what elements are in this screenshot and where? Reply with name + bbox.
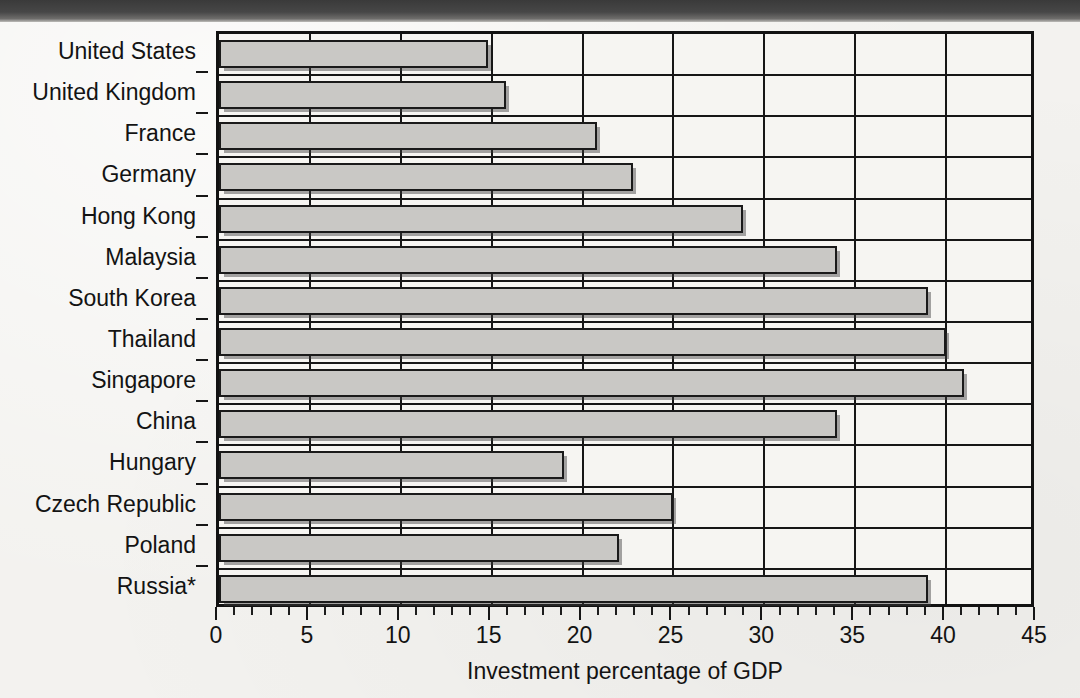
x-tick-minor <box>597 607 599 615</box>
x-tick-minor <box>360 607 362 615</box>
category-label: Thailand <box>108 319 196 360</box>
x-axis-title: Investment percentage of GDP <box>216 658 1034 685</box>
x-tick-label: 35 <box>839 622 865 649</box>
bar[interactable] <box>219 451 564 479</box>
category-axis-labels: United StatesUnited KingdomFranceGermany… <box>0 31 208 607</box>
category-tick <box>196 318 208 320</box>
category-tick <box>196 441 208 443</box>
x-tick-major <box>215 607 217 620</box>
x-tick-label: 30 <box>749 622 775 649</box>
category-label: Hungary <box>109 442 196 483</box>
x-tick-minor <box>288 607 290 615</box>
bar[interactable] <box>219 163 633 191</box>
bar[interactable] <box>219 369 964 397</box>
bar-row <box>219 116 1031 157</box>
category-tick <box>196 195 208 197</box>
x-tick-minor <box>542 607 544 615</box>
x-tick-major <box>488 607 490 620</box>
x-tick-minor <box>233 607 235 615</box>
x-tick-minor <box>615 607 617 615</box>
x-tick-minor <box>742 607 744 615</box>
bar[interactable] <box>219 410 837 438</box>
bar-row <box>219 569 1031 610</box>
category-tick <box>196 71 208 73</box>
value-axis-tick-labels: 051015202530354045 <box>216 622 1034 654</box>
x-tick-label: 25 <box>658 622 684 649</box>
x-tick-label: 20 <box>567 622 593 649</box>
bar[interactable] <box>219 287 928 315</box>
category-tick <box>196 565 208 567</box>
x-tick-major <box>306 607 308 620</box>
category-tick <box>196 359 208 361</box>
x-tick-minor <box>688 607 690 615</box>
bar-row <box>219 281 1031 322</box>
bar[interactable] <box>219 40 488 68</box>
category-tick <box>196 483 208 485</box>
x-tick-minor <box>797 607 799 615</box>
x-tick-minor <box>633 607 635 615</box>
x-tick-label: 40 <box>930 622 956 649</box>
category-tick <box>196 524 208 526</box>
category-label: Czech Republic <box>35 484 196 525</box>
category-label: Singapore <box>91 360 196 401</box>
x-tick-minor <box>506 607 508 615</box>
x-tick-label: 10 <box>385 622 411 649</box>
x-tick-major <box>579 607 581 620</box>
bar[interactable] <box>219 328 946 356</box>
x-tick-major <box>942 607 944 620</box>
bar[interactable] <box>219 534 619 562</box>
bar-row <box>219 487 1031 528</box>
x-tick-label: 0 <box>210 622 223 649</box>
plot-area <box>216 31 1034 607</box>
bar-row <box>219 322 1031 363</box>
x-tick-minor <box>724 607 726 615</box>
bar[interactable] <box>219 205 743 233</box>
category-label: Germany <box>101 154 196 195</box>
x-tick-minor <box>651 607 653 615</box>
x-tick-minor <box>833 607 835 615</box>
x-tick-minor <box>997 607 999 615</box>
bar-row <box>219 240 1031 281</box>
x-tick-major <box>760 607 762 620</box>
x-tick-minor <box>524 607 526 615</box>
bar-row <box>219 34 1031 75</box>
bar-row <box>219 445 1031 486</box>
category-tick <box>196 153 208 155</box>
bar[interactable] <box>219 575 928 603</box>
category-tick <box>196 112 208 114</box>
category-tick <box>196 400 208 402</box>
x-tick-minor <box>270 607 272 615</box>
bar-row <box>219 199 1031 240</box>
category-label: United States <box>58 31 196 72</box>
bar[interactable] <box>219 493 673 521</box>
x-tick-minor <box>706 607 708 615</box>
x-tick-major <box>397 607 399 620</box>
x-tick-minor <box>451 607 453 615</box>
category-label: France <box>124 113 196 154</box>
x-tick-minor <box>1015 607 1017 615</box>
x-tick-label: 45 <box>1021 622 1047 649</box>
bar[interactable] <box>219 246 837 274</box>
x-tick-minor <box>342 607 344 615</box>
x-tick-minor <box>869 607 871 615</box>
x-tick-minor <box>560 607 562 615</box>
x-tick-minor <box>906 607 908 615</box>
category-label: Hong Kong <box>81 196 196 237</box>
category-tick <box>196 236 208 238</box>
x-tick-minor <box>433 607 435 615</box>
x-tick-major <box>669 607 671 620</box>
bar[interactable] <box>219 81 506 109</box>
x-tick-label: 5 <box>300 622 313 649</box>
bar[interactable] <box>219 122 597 150</box>
x-tick-minor <box>251 607 253 615</box>
category-tick <box>196 277 208 279</box>
category-label: South Korea <box>68 278 196 319</box>
x-tick-minor <box>415 607 417 615</box>
chart-page: United StatesUnited KingdomFranceGermany… <box>0 0 1080 698</box>
x-tick-minor <box>815 607 817 615</box>
x-tick-minor <box>888 607 890 615</box>
x-tick-minor <box>924 607 926 615</box>
value-axis-ticks <box>216 607 1034 621</box>
bar-row <box>219 363 1031 404</box>
x-tick-major <box>1033 607 1035 620</box>
